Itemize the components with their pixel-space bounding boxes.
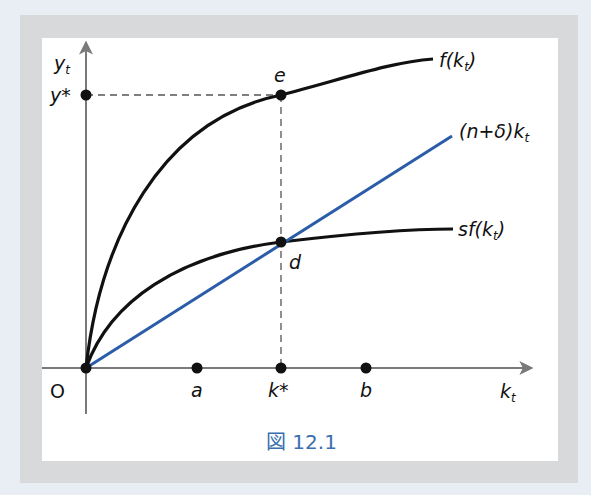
point-d xyxy=(276,237,287,248)
e-label: e xyxy=(274,64,286,86)
point-k-star xyxy=(276,363,287,374)
f-curve xyxy=(86,59,433,368)
point-e xyxy=(276,90,287,101)
sf-curve-label: sf(kt) xyxy=(458,218,505,243)
origin-point xyxy=(81,363,92,374)
point-a xyxy=(192,363,203,374)
x-axis-label: kt xyxy=(500,380,517,405)
point-b xyxy=(361,363,372,374)
y-axis-label: yt xyxy=(53,52,71,77)
line-label: (n+δ)kt xyxy=(459,120,530,145)
d-label: d xyxy=(289,251,302,273)
solow-diagram: yt kt O y* e d a k* b f(kt) (n+δ)kt sf(k… xyxy=(0,0,591,495)
f-curve-label: f(kt) xyxy=(439,49,476,74)
a-label: a xyxy=(191,379,203,401)
y-star-label: y* xyxy=(49,84,71,106)
depreciation-line xyxy=(86,136,452,368)
b-label: b xyxy=(360,379,372,401)
origin-label: O xyxy=(50,380,65,402)
figure-caption: 図 12.1 xyxy=(266,430,337,454)
point-y-star xyxy=(81,90,92,101)
k-star-label: k* xyxy=(268,379,289,401)
sf-curve xyxy=(86,229,453,368)
